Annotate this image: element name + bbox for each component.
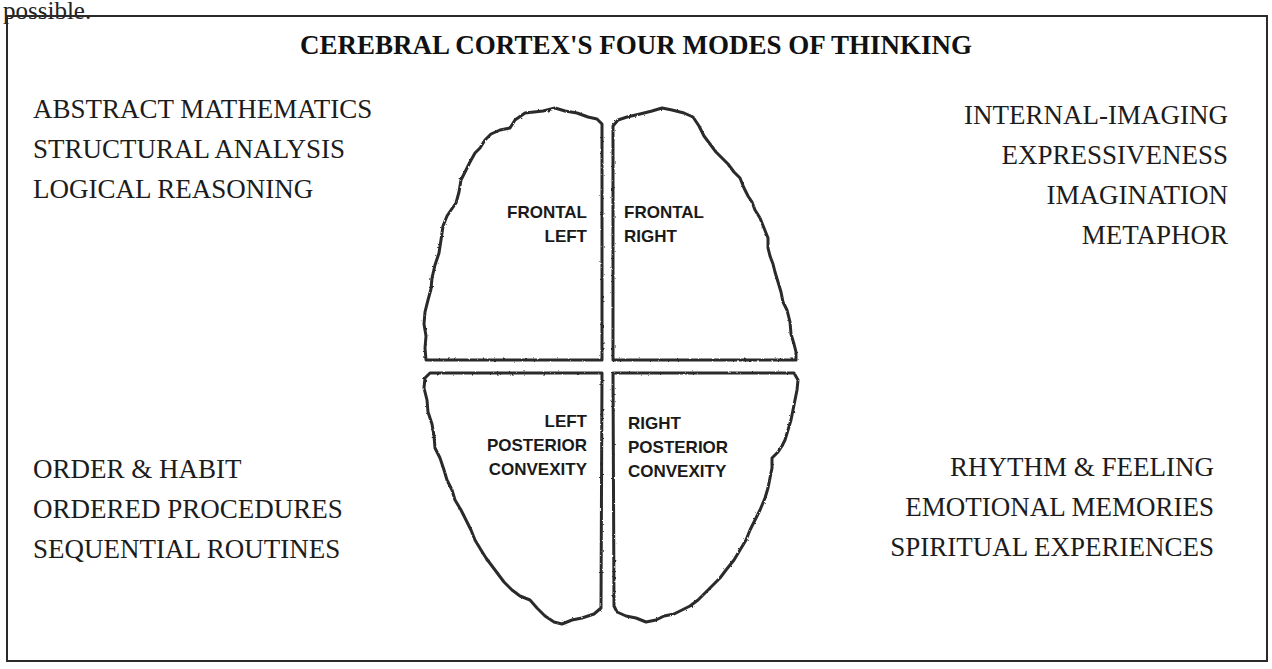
right-posterior-lobe	[613, 373, 798, 622]
frontal-right-label: FRONTAL RIGHT	[624, 201, 704, 249]
right-posterior-convexity-label: RIGHT POSTERIOR CONVEXITY	[628, 412, 728, 484]
left-posterior-convexity-label: LEFT POSTERIOR CONVEXITY	[487, 410, 587, 482]
frontal-left-label: FRONTAL LEFT	[507, 201, 587, 249]
